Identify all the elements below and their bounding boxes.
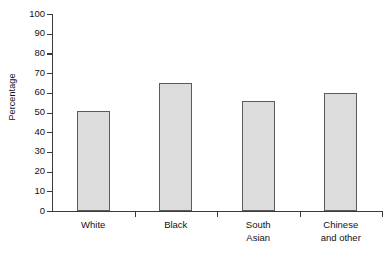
bar-chart: Percentage 0102030405060708090100 WhiteB… bbox=[0, 0, 392, 258]
y-axis-tick-label: 40 bbox=[34, 126, 45, 138]
x-axis-tick bbox=[135, 211, 136, 217]
y-axis-tick-label: 20 bbox=[34, 165, 45, 177]
x-axis-tick bbox=[217, 211, 218, 217]
y-axis-tick bbox=[47, 152, 52, 153]
y-axis-tick bbox=[47, 113, 52, 114]
y-axis-tick bbox=[47, 34, 52, 35]
y-axis-tick bbox=[47, 211, 52, 212]
y-axis-tick bbox=[47, 14, 52, 15]
x-axis-category-label: South Asian bbox=[217, 219, 300, 244]
x-axis-tick bbox=[300, 211, 301, 217]
bar bbox=[159, 83, 192, 211]
x-axis-category-label: Black bbox=[135, 219, 218, 232]
plot-area: 0102030405060708090100 WhiteBlackSouth A… bbox=[52, 14, 382, 211]
y-axis-tick-label: 60 bbox=[34, 86, 45, 98]
y-axis-tick bbox=[47, 132, 52, 133]
y-axis-tick-label: 0 bbox=[40, 205, 45, 217]
bar bbox=[324, 93, 357, 211]
y-axis-tick bbox=[47, 93, 52, 94]
x-axis-category-label: Chinese and other bbox=[300, 219, 383, 244]
y-axis-line bbox=[52, 14, 53, 211]
y-axis-tick bbox=[47, 172, 52, 173]
y-axis-tick-label: 100 bbox=[29, 8, 45, 20]
y-axis-tick-label: 30 bbox=[34, 145, 45, 157]
y-axis-title: Percentage bbox=[7, 57, 17, 137]
y-axis-tick bbox=[47, 191, 52, 192]
y-axis-tick-label: 50 bbox=[34, 106, 45, 118]
x-axis-tick bbox=[382, 211, 383, 217]
y-axis-tick bbox=[47, 53, 52, 54]
x-axis-category-label: White bbox=[52, 219, 135, 232]
bar bbox=[77, 111, 110, 211]
y-axis-tick-label: 80 bbox=[34, 47, 45, 59]
y-axis-tick-label: 70 bbox=[34, 67, 45, 79]
y-axis-tick bbox=[47, 73, 52, 74]
bar bbox=[242, 101, 275, 211]
y-axis-tick-label: 90 bbox=[34, 27, 45, 39]
y-axis-tick-label: 10 bbox=[34, 185, 45, 197]
